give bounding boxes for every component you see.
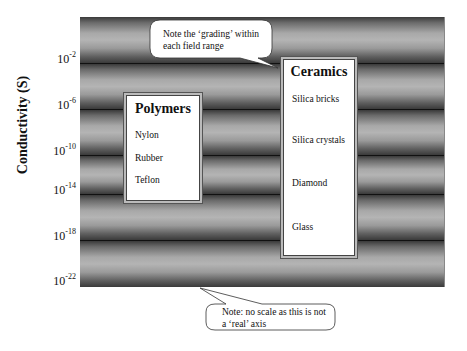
top-callout-text: Note the ‘grading’ within each field ran… [163, 28, 259, 52]
bottom-callout-text: Note: no scale as this is not a ‘real’ a… [222, 306, 326, 330]
callout-line: a ‘real’ axis [222, 318, 326, 330]
callout-shapes [0, 0, 467, 351]
callout-line: each field range [163, 40, 259, 52]
callout-line: Note: no scale as this is not [222, 306, 326, 318]
callout-line: Note the ‘grading’ within [163, 28, 259, 40]
